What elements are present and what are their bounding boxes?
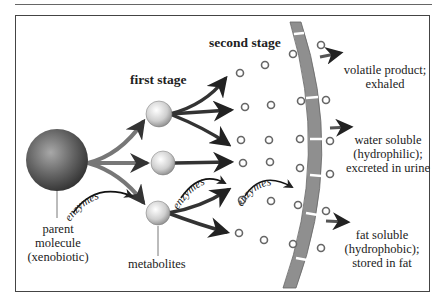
- outcome-water-soluble: water soluble (hydrophilic); excreted in…: [338, 133, 438, 175]
- metabolite-sphere: [151, 151, 175, 175]
- outcome-fat-soluble: fat soluble (hydrophobic); stored in fat: [332, 228, 432, 270]
- second-stage-label: second stage: [209, 36, 281, 50]
- metabolite-sphere: [146, 101, 172, 127]
- metabolite-sphere: [146, 201, 170, 225]
- parent-molecule-sphere: [26, 129, 88, 191]
- enzymes-label: enzymes: [233, 175, 272, 208]
- parent-molecule-label: parent molecule (xenobiotic): [18, 222, 98, 264]
- metabolites-label: metabolites: [128, 257, 186, 271]
- parent-arrows: [88, 122, 146, 202]
- first-stage-label: first stage: [130, 73, 187, 87]
- cell-membrane: [283, 22, 322, 288]
- outcome-volatile: volatile product; exhaled: [330, 63, 440, 91]
- enzymes-label: enzymes: [62, 189, 101, 223]
